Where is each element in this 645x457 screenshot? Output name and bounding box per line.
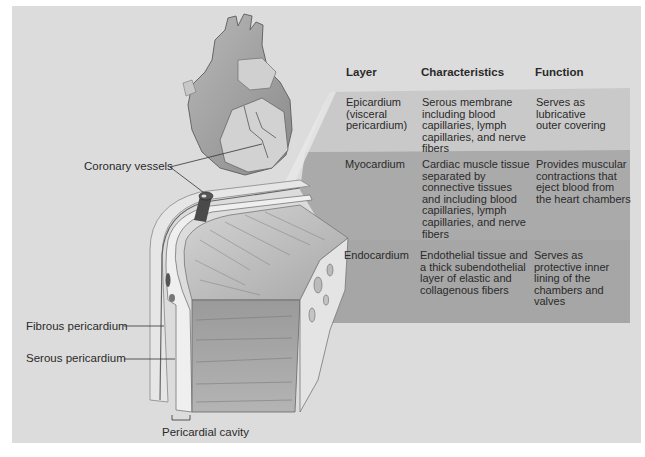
row-myocardium-characteristics: Cardiac muscle tissue separated by conne… — [422, 159, 530, 240]
heart-illustration — [183, 14, 292, 175]
header-function: Function — [535, 66, 584, 78]
row-myocardium-layer: Myocardium — [345, 159, 405, 171]
label-serous-pericardium: Serous pericardium — [26, 352, 126, 365]
row-epicardium-layer: Epicardium (visceral pericardium) — [346, 97, 407, 132]
label-coronary-vessels: Coronary vessels — [84, 160, 173, 173]
row-epicardium-function: Serves as lubricative outer covering — [536, 97, 606, 132]
row-epicardium-characteristics: Serous membrane including blood capillar… — [422, 97, 526, 155]
row-endocardium-function: Serves as protective inner lining of the… — [534, 250, 609, 308]
label-fibrous-pericardium: Fibrous pericardium — [26, 320, 128, 333]
row-endocardium-layer: Endocardium — [344, 250, 409, 262]
label-pericardial-cavity: Pericardial cavity — [162, 426, 249, 439]
row-myocardium-function: Provides muscular contractions that ejec… — [536, 159, 631, 205]
header-layer: Layer — [346, 66, 377, 78]
header-characteristics: Characteristics — [421, 66, 504, 78]
row-endocardium-characteristics: Endothelial tissue and a thick subendoth… — [420, 250, 528, 296]
